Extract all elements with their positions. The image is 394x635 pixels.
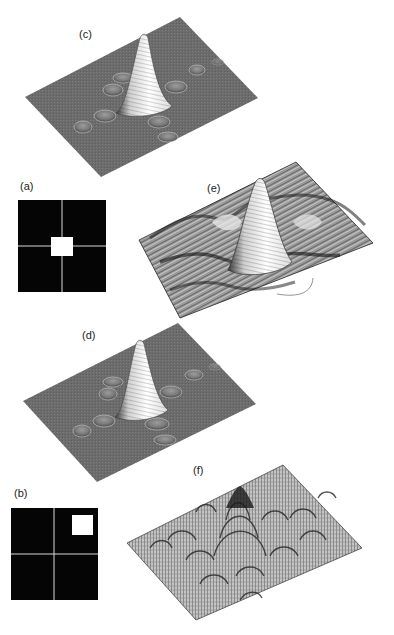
aperture-mask-a (18, 200, 106, 292)
aperture-b (72, 515, 93, 535)
plot-plane-f (127, 465, 362, 620)
surface-plot-f (127, 465, 362, 620)
surface-plot-d (23, 323, 256, 482)
aperture-a (51, 237, 73, 256)
surface-plot-c (25, 17, 258, 177)
surface-plot-e (139, 162, 373, 318)
figure-canvas (0, 0, 394, 635)
aperture-mask-b (11, 508, 98, 600)
